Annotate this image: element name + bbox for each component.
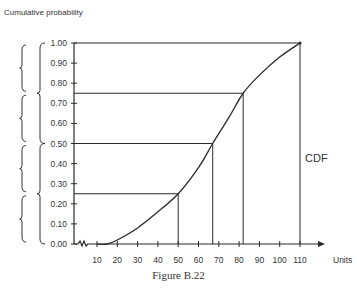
y-tick-label: 0.20 [50, 199, 67, 209]
curve-label: CDF [305, 152, 328, 164]
x-axis-label: Units [333, 255, 352, 265]
x-tick-label: 100 [273, 255, 287, 265]
x-tick-label: 50 [173, 255, 183, 265]
outer-quartile-brace [20, 146, 26, 192]
x-tick-label: 60 [194, 255, 204, 265]
y-tick-label: 0.60 [50, 118, 67, 128]
figure-caption: Figure B.22 [0, 269, 357, 281]
y-tick-label: 0.70 [50, 98, 67, 108]
x-tick-label: 10 [92, 255, 102, 265]
x-tick-label: 110 [293, 255, 307, 265]
cdf-endpoint [298, 41, 301, 44]
y-tick-label: 0.10 [50, 219, 67, 229]
y-tick-label: 1.00 [50, 38, 67, 48]
outer-quartile-brace [20, 196, 26, 242]
x-tick-label: 40 [153, 255, 163, 265]
y-tick-label: 0.00 [50, 239, 67, 249]
y-tick-label: 0.90 [50, 58, 67, 68]
y-tick-label: 0.40 [50, 159, 67, 169]
x-tick-label: 30 [133, 255, 143, 265]
x-tick-label: 70 [214, 255, 224, 265]
x-tick-label: 80 [234, 255, 244, 265]
inner-half-brace [37, 144, 45, 245]
inner-half-brace [37, 43, 45, 144]
x-tick-label: 90 [255, 255, 265, 265]
y-tick-label: 0.80 [50, 78, 67, 88]
outer-quartile-brace [20, 95, 26, 141]
y-tick-label: 0.30 [50, 179, 67, 189]
cdf-chart: 0.000.100.200.300.400.500.600.700.800.90… [0, 0, 357, 296]
y-tick-label: 0.50 [50, 139, 67, 149]
x-tick-label: 20 [113, 255, 123, 265]
outer-quartile-brace [20, 45, 26, 91]
x-axis-arrow-icon [318, 241, 325, 247]
